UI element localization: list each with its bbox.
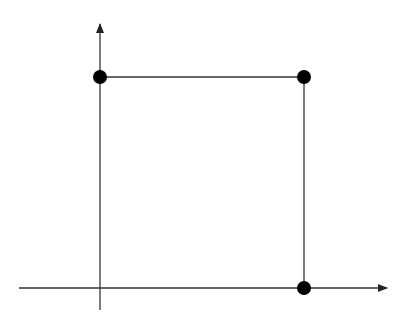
point-bottom-right: [297, 281, 311, 295]
point-top-left: [93, 70, 107, 84]
points: [93, 70, 311, 295]
rectangle-edges: [100, 77, 304, 288]
diagram-canvas: [0, 0, 407, 324]
axes: [19, 24, 387, 310]
point-top-right: [297, 70, 311, 84]
